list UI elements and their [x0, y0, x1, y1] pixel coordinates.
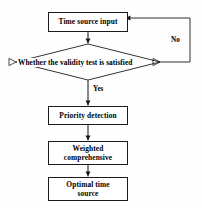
node-time-source-input: Time source input	[48, 12, 128, 32]
node-priority-detection-label: Priority detection	[59, 111, 116, 120]
edge-label-no: No	[171, 36, 180, 44]
flowchart-diagram: Time source input Whether the validity t…	[0, 0, 202, 208]
node-time-source-input-label: Time source input	[59, 17, 118, 26]
node-weighted-comprehensive: Weighted comprehensive	[48, 141, 128, 165]
edge-label-yes: Yes	[93, 85, 103, 93]
node-validity-test-label: Whether the validity test is satisfied	[17, 58, 133, 67]
node-optimal-time-source-label-line2: source	[78, 189, 99, 198]
node-weighted-comprehensive-label-line2: comprehensive	[64, 153, 112, 162]
node-priority-detection: Priority detection	[48, 106, 128, 125]
node-optimal-time-source: Optimal time source	[48, 177, 128, 201]
edge-decision-no-feedback	[131, 18, 191, 62]
decision-left-vertex-marker	[9, 58, 16, 65]
node-optimal-time-source-label-line1: Optimal time	[66, 180, 109, 189]
node-weighted-comprehensive-label-line1: Weighted	[73, 144, 104, 153]
